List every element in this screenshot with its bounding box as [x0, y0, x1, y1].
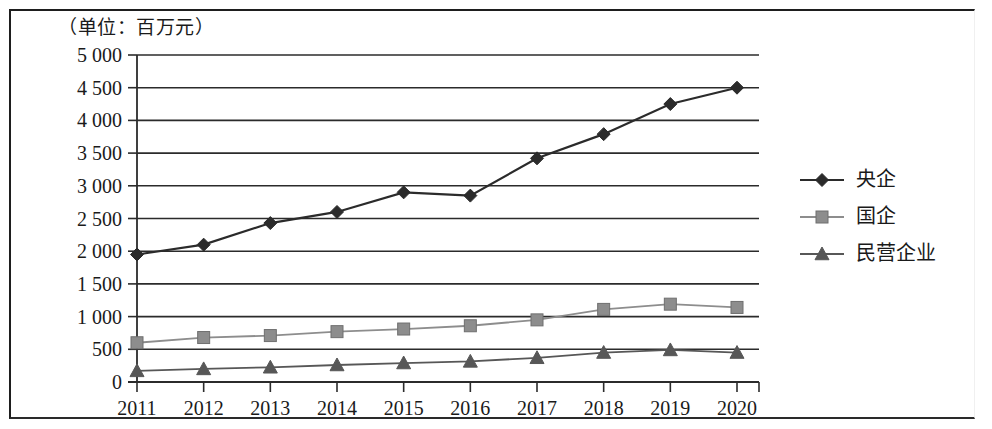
data-point	[464, 320, 476, 332]
y-tick-label: 2 000	[77, 240, 122, 262]
x-tick-label: 2017	[517, 397, 557, 419]
data-point	[531, 314, 543, 326]
x-tick-label: 2015	[384, 397, 424, 419]
y-tick-label: 500	[92, 338, 122, 360]
y-tick-label: 1 500	[77, 273, 122, 295]
data-point	[598, 303, 610, 315]
line-chart-svg: 05001 0001 5002 0002 5003 0003 5004 0004…	[0, 0, 992, 429]
y-tick-label: 3 000	[77, 175, 122, 197]
series-line	[137, 88, 737, 255]
y-tick-label: 3 500	[77, 142, 122, 164]
series-group	[130, 81, 744, 376]
x-tick-label: 2020	[717, 397, 757, 419]
data-point	[331, 326, 343, 338]
data-point	[197, 238, 210, 251]
y-tick-label: 1 000	[77, 306, 122, 328]
series-line	[137, 350, 737, 371]
legend-item-1: 央企	[800, 168, 896, 190]
x-tick-label: 2016	[450, 397, 490, 419]
data-point	[131, 337, 143, 349]
y-tick-label: 2 500	[77, 208, 122, 230]
data-point	[331, 205, 344, 218]
data-point	[664, 298, 676, 310]
data-point	[398, 323, 410, 335]
data-point	[464, 189, 477, 202]
legend-label: 民营企业	[856, 242, 936, 264]
legend-marker	[816, 174, 829, 187]
y-tick-label: 4 000	[77, 109, 122, 131]
legend-label: 国企	[856, 205, 896, 227]
x-tick-label: 2014	[317, 397, 357, 419]
y-tick-label: 4 500	[77, 77, 122, 99]
data-point	[664, 98, 677, 111]
y-tick-label: 5 000	[77, 44, 122, 66]
chart-legend: 央企国企民营企业	[800, 168, 936, 264]
y-tick-label: 0	[112, 371, 122, 393]
legend-item-3: 民营企业	[800, 242, 936, 264]
data-point	[198, 332, 210, 344]
data-point	[731, 301, 743, 313]
plot-area: 05001 0001 5002 0002 5003 0003 5004 0004…	[0, 0, 992, 429]
series-1	[131, 81, 744, 261]
data-point	[597, 128, 610, 141]
x-axis-ticks-group: 2011201220132014201520162017201820192020	[117, 382, 759, 419]
data-point	[731, 81, 744, 94]
x-tick-label: 2013	[250, 397, 290, 419]
legend-item-2: 国企	[800, 205, 896, 227]
data-point	[397, 186, 410, 199]
data-point	[131, 248, 144, 261]
x-tick-label: 2011	[117, 397, 156, 419]
series-2	[131, 298, 743, 349]
y-axis-ticks-group: 05001 0001 5002 0002 5003 0003 5004 0004…	[77, 44, 137, 393]
legend-label: 央企	[856, 168, 896, 190]
legend-marker	[816, 211, 828, 223]
x-tick-label: 2012	[184, 397, 224, 419]
data-point	[264, 330, 276, 342]
series-line	[137, 304, 737, 343]
chart-figure: （单位：百万元） 05001 0001 5002 0002 5003 0003 …	[0, 0, 992, 429]
x-tick-label: 2018	[584, 397, 624, 419]
series-3	[130, 343, 744, 377]
x-tick-label: 2019	[650, 397, 690, 419]
